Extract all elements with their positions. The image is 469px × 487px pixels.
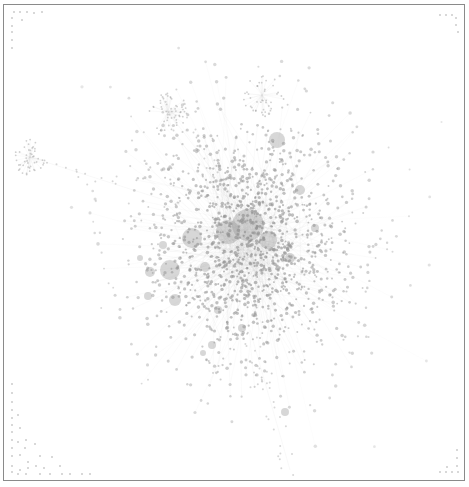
graph-node (293, 196, 296, 199)
graph-node (217, 188, 220, 191)
graph-node (285, 240, 287, 242)
isolated-node-bottom-left (35, 465, 37, 467)
graph-node (271, 319, 273, 321)
graph-node (157, 243, 159, 245)
graph-node (264, 115, 266, 117)
graph-node (248, 176, 251, 179)
tail-node (265, 361, 267, 363)
upper-left-cluster-node (176, 122, 178, 124)
graph-node (331, 222, 333, 224)
graph-nodes (15, 47, 443, 476)
graph-node (206, 251, 210, 255)
graph-node (331, 301, 335, 305)
graph-node (348, 351, 350, 353)
graph-node (251, 287, 254, 290)
graph-node (285, 288, 288, 291)
graph-node (280, 159, 284, 163)
graph-node (264, 212, 267, 215)
graph-node (331, 101, 334, 104)
graph-node (164, 219, 166, 221)
graph-node (194, 274, 197, 277)
graph-node (166, 195, 170, 199)
upper-left-cluster-node (156, 127, 158, 129)
isolated-node-bottom-left (11, 455, 13, 457)
tail-node (186, 116, 188, 118)
graph-node (233, 327, 235, 329)
left-cluster-node (44, 159, 46, 161)
tail-node (279, 445, 281, 447)
graph-node (230, 420, 233, 423)
tail-node (77, 176, 79, 178)
top-cluster-node (255, 110, 257, 112)
tail-node (246, 345, 248, 347)
graph-node (323, 223, 326, 226)
graph-node (214, 247, 216, 249)
graph-node (167, 235, 170, 238)
graph-node (178, 212, 181, 215)
graph-node (281, 285, 284, 288)
graph-node (203, 273, 206, 276)
isolated-node-bottom-left (11, 471, 13, 473)
graph-node (285, 307, 288, 310)
graph-node (345, 290, 347, 292)
graph-node (348, 242, 350, 244)
graph-node (213, 329, 216, 332)
isolated-node-top-left (41, 11, 43, 13)
graph-node (192, 178, 195, 181)
graph-node (264, 179, 266, 181)
graph-node (343, 250, 346, 253)
isolated-node-top-left (11, 17, 13, 19)
graph-node (335, 268, 338, 271)
graph-node (240, 128, 242, 130)
graph-node (220, 284, 222, 286)
graph-node (379, 237, 382, 240)
tail-node (291, 453, 293, 455)
graph-node (316, 128, 319, 131)
graph-node (268, 267, 271, 270)
tail-node (116, 175, 118, 177)
graph-node (327, 271, 329, 273)
graph-node (228, 205, 230, 207)
left-cluster-node (32, 146, 34, 148)
graph-node (246, 186, 249, 189)
graph-node (293, 276, 295, 278)
graph-node (331, 296, 333, 298)
graph-node (375, 257, 377, 259)
graph-node (197, 196, 200, 199)
isolated-node-bottom-left (11, 424, 13, 426)
graph-node (292, 136, 295, 139)
graph-node (223, 266, 226, 269)
tail-node (214, 159, 216, 161)
isolated-node-top-left (13, 11, 15, 13)
upper-left-cluster-node (174, 108, 176, 110)
graph-node (311, 251, 314, 254)
graph-node (270, 184, 273, 187)
graph-node (259, 183, 262, 186)
graph-node (119, 308, 122, 311)
graph-node (233, 195, 237, 199)
isolated-node-bottom-left (11, 392, 13, 394)
graph-node (145, 317, 149, 321)
graph-node (173, 281, 176, 284)
graph-node (208, 275, 210, 277)
graph-node (288, 351, 290, 353)
graph-node (173, 184, 175, 186)
graph-node (175, 203, 177, 205)
tail-node (269, 387, 271, 389)
graph-node (274, 208, 277, 211)
hub-node (295, 185, 305, 195)
graph-node (169, 178, 171, 180)
hub-node (200, 262, 210, 272)
graph-node (391, 219, 394, 222)
graph-node (244, 366, 247, 369)
graph-node (277, 242, 280, 245)
network-graph-canvas[interactable] (0, 0, 469, 487)
graph-node (228, 261, 231, 264)
graph-node (207, 273, 209, 275)
graph-node (368, 197, 371, 200)
graph-node (175, 205, 178, 208)
graph-node (229, 338, 232, 341)
graph-node (184, 295, 188, 299)
graph-node (345, 253, 347, 255)
upper-left-cluster-node (185, 107, 187, 109)
